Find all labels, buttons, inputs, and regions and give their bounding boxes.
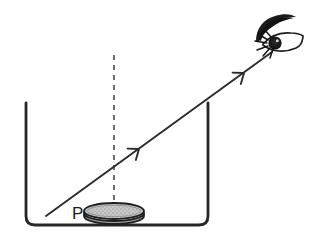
eye-pupil [268,36,281,49]
optics-diagram-figure: P [0,0,322,246]
eye-highlight [276,39,279,42]
diagram-canvas: P [0,0,322,246]
coin-label-P: P [72,204,83,223]
coin-P [84,203,144,224]
